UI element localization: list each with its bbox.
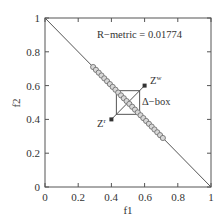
- x-tick-4: 0.8: [171, 191, 185, 203]
- plot-area: [45, 18, 211, 187]
- x-axis-label: f1: [123, 204, 132, 216]
- x-tick-1: 0.2: [71, 191, 85, 203]
- x-tick-3: 0.6: [138, 191, 152, 203]
- y-tick-2: 0.4: [26, 113, 40, 125]
- chart: 0 0.2 0.4 0.6 0.8 1 0 0.2 0.4 0.6 0.8 1 …: [0, 0, 222, 223]
- x-tick-2: 0.4: [104, 191, 118, 203]
- solution-point: [160, 135, 165, 140]
- reference-point-marker: [143, 84, 147, 88]
- zw-label: Zw: [150, 74, 162, 86]
- reference-point-marker: [109, 117, 113, 121]
- x-tick-5: 1: [208, 191, 214, 203]
- y-tick-4: 0.8: [26, 46, 40, 58]
- delta-box-label: Δ−box: [142, 96, 171, 107]
- y-tick-3: 0.6: [26, 80, 40, 92]
- zr-label: Zr: [97, 117, 106, 129]
- y-tick-5: 1: [35, 12, 41, 24]
- r-metric-label: R−metric = 0.01774: [97, 29, 183, 40]
- y-axis-label: f2: [10, 98, 22, 107]
- y-tick-0: 0: [35, 181, 41, 193]
- x-tick-0: 0: [42, 191, 48, 203]
- y-tick-1: 0.2: [26, 147, 40, 159]
